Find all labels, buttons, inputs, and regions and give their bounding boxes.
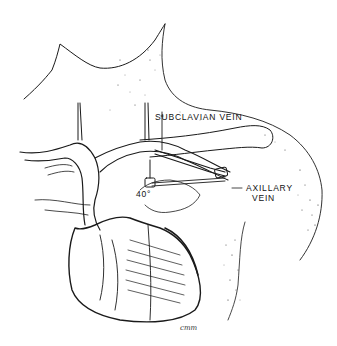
great-vessels: [20, 103, 230, 230]
stipple-shading: [110, 50, 319, 301]
anatomical-illustration: SUBCLAVIAN VEIN AXILLARY VEIN 40° cmm: [0, 0, 337, 346]
artist-signature: cmm: [180, 324, 198, 332]
label-axillary-vein-line1: AXILLARY: [246, 183, 293, 193]
heart: [69, 217, 201, 322]
label-insertion-angle: 40°: [136, 189, 151, 199]
label-axillary-vein-line2: VEIN: [252, 193, 275, 203]
torso-outline: [24, 24, 322, 320]
label-subclavian-vein: SUBCLAVIAN VEIN: [155, 112, 242, 122]
